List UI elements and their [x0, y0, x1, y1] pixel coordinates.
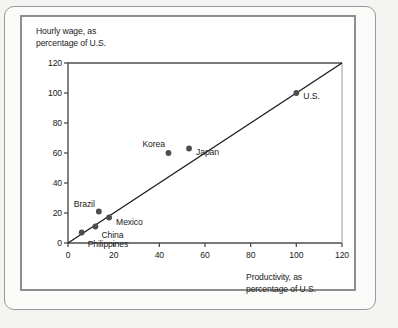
data-point: [106, 215, 112, 221]
data-point: [293, 90, 299, 96]
x-axis-tick-label: 80: [246, 250, 255, 260]
data-point-label: Korea: [142, 139, 164, 149]
y-axis-tick-label: 80: [34, 118, 62, 128]
y-axis-tick-label: 0: [34, 238, 62, 248]
data-point-label: China: [101, 230, 123, 240]
data-point: [93, 224, 99, 230]
data-point: [79, 230, 85, 236]
plot-svg: [0, 0, 398, 328]
x-axis-tick-label: 100: [289, 250, 303, 260]
y-axis-tick-label: 40: [34, 178, 62, 188]
data-point: [166, 150, 172, 156]
figure-root: Hourly wage, as percentage of U.S. Produ…: [0, 0, 398, 328]
y-axis-tick-label: 20: [34, 208, 62, 218]
x-axis-tick-label: 0: [66, 250, 71, 260]
data-point: [186, 146, 192, 152]
x-axis-tick-label: 20: [109, 250, 118, 260]
data-point-label: Philippines: [88, 239, 128, 249]
data-point-label: Mexico: [116, 217, 143, 227]
y-axis-tick-label: 60: [34, 148, 62, 158]
data-point-label: Japan: [196, 147, 219, 157]
data-point-label: U.S.: [303, 91, 319, 101]
data-point: [96, 209, 102, 215]
scatter-plot: Hourly wage, as percentage of U.S. Produ…: [0, 0, 398, 328]
data-point-label: Brazil: [74, 199, 95, 209]
y-axis-tick-label: 120: [34, 58, 62, 68]
y-axis-tick-label: 100: [34, 88, 62, 98]
x-axis-tick-label: 60: [200, 250, 209, 260]
x-axis-tick-label: 40: [155, 250, 164, 260]
x-axis-tick-label: 120: [335, 250, 349, 260]
